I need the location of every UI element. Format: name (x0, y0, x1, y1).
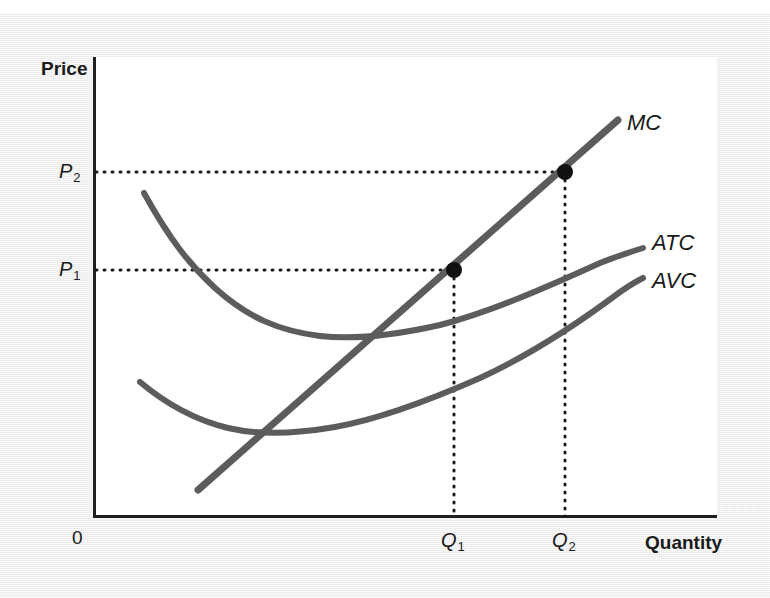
avc-curve (140, 278, 643, 433)
origin-label: 0 (72, 528, 83, 547)
p2-subscript: 2 (73, 170, 80, 185)
mc-curve (198, 120, 618, 490)
q1-subscript: 1 (458, 539, 465, 554)
p2-base: P (59, 160, 72, 182)
q1-base: Q (441, 529, 457, 551)
chart-graphics-layer (0, 0, 770, 598)
avc-curve-label: AVC (652, 270, 696, 292)
cost-curves-figure: Price Quantity 0 P2 P1 Q1 Q2 MC ATC AVC (0, 0, 770, 598)
atc-curve-label: ATC (652, 232, 694, 254)
mc-curve-label: MC (627, 112, 661, 134)
x-tick-label-q2: Q2 (552, 530, 575, 550)
equilibrium-point-1 (446, 262, 462, 278)
p1-subscript: 1 (73, 268, 80, 283)
x-axis-label: Quantity (645, 533, 722, 552)
q2-base: Q (552, 529, 568, 551)
p1-base: P (59, 258, 72, 280)
equilibrium-point-2 (557, 164, 573, 180)
y-tick-label-p1: P1 (59, 259, 80, 279)
x-tick-label-q1: Q1 (441, 530, 464, 550)
y-tick-label-p2: P2 (59, 161, 80, 181)
y-axis-label: Price (41, 59, 87, 78)
q2-subscript: 2 (569, 539, 576, 554)
